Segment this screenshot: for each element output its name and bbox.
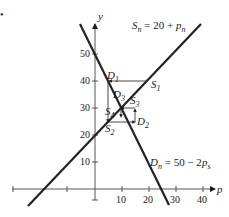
supply-line xyxy=(28,24,201,206)
y-axis: 10 20 30 40 50 y xyxy=(80,10,103,200)
label-S3: S3 xyxy=(130,94,140,109)
label-D2: D2 xyxy=(136,115,149,130)
y-tick-30: 30 xyxy=(80,102,90,113)
y-tick-50: 50 xyxy=(80,48,90,59)
label-S4: S4 xyxy=(105,105,115,120)
cobweb-diagram: • 10 20 30 40 p 10 20 30 40 50 y xyxy=(0,0,229,217)
x-tick-10: 10 xyxy=(116,194,126,205)
y-tick-10: 10 xyxy=(80,156,90,167)
label-S2: S2 xyxy=(105,122,115,137)
demand-line xyxy=(80,24,169,205)
x-axis: 10 20 30 40 p xyxy=(12,183,223,205)
label-S1: S1 xyxy=(151,78,161,93)
x-tick-30: 30 xyxy=(170,194,180,205)
bullet: • xyxy=(0,9,4,20)
y-axis-label: y xyxy=(97,10,103,22)
y-tick-20: 20 xyxy=(80,129,90,140)
x-tick-40: 40 xyxy=(197,194,207,205)
x-axis-label: p xyxy=(216,183,223,195)
demand-equation: Dn = 50 − 2ps xyxy=(149,156,211,171)
x-tick-20: 20 xyxy=(143,194,153,205)
supply-equation: Sn = 20 + pn xyxy=(132,19,185,34)
y-tick-40: 40 xyxy=(80,75,90,86)
